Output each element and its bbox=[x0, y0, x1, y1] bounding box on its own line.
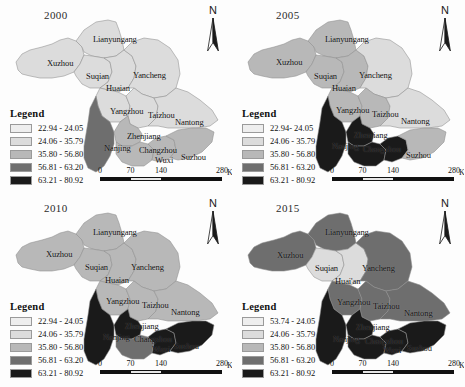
legend-swatch bbox=[10, 343, 32, 352]
scale-bar-segment bbox=[333, 371, 363, 373]
scale-bar-tick: 70 bbox=[359, 359, 367, 368]
legend-row: 56.81 - 63.20 bbox=[10, 354, 83, 366]
city-label: Changzhou bbox=[139, 145, 177, 155]
map-figure: 2000 N bbox=[0, 0, 465, 387]
city-label: Lianyungang bbox=[93, 34, 137, 44]
legend-label: 35.80 - 56.80 bbox=[38, 149, 83, 159]
city-label: Wuxi bbox=[155, 155, 173, 165]
legend-label: 35.80 - 56.80 bbox=[270, 149, 315, 159]
city-label: Xuzhou bbox=[276, 57, 302, 67]
legend-row: 22.94 - 24.05 bbox=[10, 122, 83, 134]
city-label: Yangzhou bbox=[337, 297, 370, 307]
city-label: Nantong bbox=[175, 117, 204, 127]
scale-bar-tick: 0 bbox=[330, 359, 334, 368]
scale-bar-unit: Km bbox=[459, 361, 464, 370]
legend-label: 56.81 - 63.20 bbox=[38, 162, 83, 172]
legend-label: 56.81 - 63.20 bbox=[38, 355, 83, 365]
legend-swatch bbox=[10, 317, 32, 326]
scale-bar-segment bbox=[101, 178, 131, 180]
city-label: Nanjing bbox=[104, 143, 131, 153]
legend-row: 63.21 - 80.92 bbox=[242, 367, 315, 379]
legend-row: 24.06 - 35.79 bbox=[242, 328, 315, 340]
city-label: Yangzhou bbox=[336, 105, 369, 115]
city-label: Nantong bbox=[404, 308, 433, 318]
city-label: Yancheng bbox=[359, 70, 392, 80]
legend-row: 56.81 - 63.20 bbox=[242, 161, 315, 173]
legend-label: 53.74 - 24.05 bbox=[270, 316, 315, 326]
city-label: Xuzhou bbox=[277, 250, 303, 260]
city-label: Yangzhou bbox=[110, 106, 143, 116]
city-label: Suzhou bbox=[181, 152, 206, 162]
legend-row: 63.21 - 80.92 bbox=[10, 174, 83, 186]
scale-bar-segment bbox=[161, 178, 221, 180]
city-label: Suqian bbox=[314, 71, 337, 81]
scale-bar: 070140280 Km bbox=[332, 166, 454, 181]
city-label: Zhenjiang bbox=[356, 322, 390, 332]
city-label: Suqian bbox=[85, 262, 108, 272]
legend-swatch bbox=[10, 163, 32, 172]
scale-bar-segment bbox=[131, 371, 161, 373]
legend-title: Legend bbox=[10, 108, 83, 119]
scale-bar-tick: 70 bbox=[127, 359, 135, 368]
legend-swatch bbox=[10, 356, 32, 365]
city-label: Nanjing bbox=[103, 332, 130, 342]
legend-row: 63.21 - 80.92 bbox=[10, 367, 83, 379]
city-label: Nanjing bbox=[332, 141, 359, 151]
scale-bar-tick: 0 bbox=[98, 166, 102, 175]
legend-row: 56.81 - 63.20 bbox=[242, 354, 315, 366]
scale-bar-segment bbox=[363, 178, 393, 180]
legend-label: 24.06 - 35.79 bbox=[270, 329, 315, 339]
map-legend: Legend 22.94 - 24.0524.06 - 35.7935.80 -… bbox=[10, 301, 83, 380]
legend-swatch bbox=[242, 150, 264, 159]
scale-bar-graphic bbox=[332, 177, 454, 181]
legend-row: 35.80 - 56.80 bbox=[242, 148, 315, 160]
city-label: Huai'an bbox=[335, 276, 360, 286]
city-label: Suzhou bbox=[406, 150, 431, 160]
map-legend: Legend 53.74 - 24.0524.06 - 35.7935.80 -… bbox=[242, 301, 315, 380]
legend-rows: 53.74 - 24.0524.06 - 35.7935.80 - 56.805… bbox=[242, 315, 315, 379]
scale-bar-graphic bbox=[332, 370, 454, 374]
legend-row: 56.81 - 63.20 bbox=[10, 161, 83, 173]
legend-label: 22.94- 24.05 bbox=[270, 123, 313, 133]
legend-rows: 22.94 - 24.0524.06 - 35.7935.80 - 56.805… bbox=[10, 122, 83, 186]
scale-bar-segment bbox=[363, 371, 393, 373]
legend-swatch bbox=[10, 176, 32, 185]
scale-bar-tick: 70 bbox=[359, 166, 367, 175]
scale-bar-unit: Km bbox=[459, 168, 464, 177]
scale-bar-graphic bbox=[100, 177, 222, 181]
scale-bar-segment bbox=[161, 371, 221, 373]
map-legend: Legend 22.94- 24.0524.06 - 35.7935.80 - … bbox=[242, 108, 315, 187]
scale-bar-tick: 140 bbox=[155, 359, 167, 368]
city-label: Wuxi bbox=[152, 344, 170, 354]
city-label: Xuzhou bbox=[47, 58, 73, 68]
legend-swatch bbox=[242, 330, 264, 339]
scale-bar-numbers: 070140280 bbox=[100, 166, 222, 177]
scale-bar-tick: 140 bbox=[387, 166, 399, 175]
city-label: Taizhou bbox=[148, 110, 175, 120]
city-label: Taizhou bbox=[373, 301, 400, 311]
city-label: Suqian bbox=[315, 263, 338, 273]
legend-label: 22.94 - 24.05 bbox=[38, 123, 83, 133]
map-panel-2000: 2000 N bbox=[0, 0, 232, 193]
legend-row: 63.21 - 80.92 bbox=[242, 174, 315, 186]
legend-swatch bbox=[242, 137, 264, 146]
scale-bar-segment bbox=[131, 178, 161, 180]
legend-row: 22.94 - 24.05 bbox=[10, 315, 83, 327]
legend-row: 24.06 - 35.79 bbox=[242, 135, 315, 147]
legend-rows: 22.94- 24.0524.06 - 35.7935.80 - 56.8056… bbox=[242, 122, 315, 186]
scale-bar-numbers: 070140280 bbox=[100, 359, 222, 370]
legend-label: 56.81 - 63.20 bbox=[270, 355, 315, 365]
legend-swatch bbox=[10, 137, 32, 146]
legend-swatch bbox=[242, 343, 264, 352]
scale-bar: 070140280 Km bbox=[332, 359, 454, 374]
city-label: Suzhou bbox=[174, 341, 199, 351]
scale-bar-segment bbox=[333, 178, 363, 180]
city-label: Nanjing bbox=[333, 334, 360, 344]
city-label: Zhenjiang bbox=[125, 321, 159, 331]
scale-bar-segment bbox=[101, 371, 131, 373]
city-label: Zhenjiang bbox=[354, 130, 388, 140]
city-label: Yangzhou bbox=[106, 296, 139, 306]
legend-row: 24.06 - 35.79 bbox=[10, 328, 83, 340]
legend-title: Legend bbox=[242, 301, 315, 312]
city-label: Lianyungang bbox=[325, 227, 369, 237]
